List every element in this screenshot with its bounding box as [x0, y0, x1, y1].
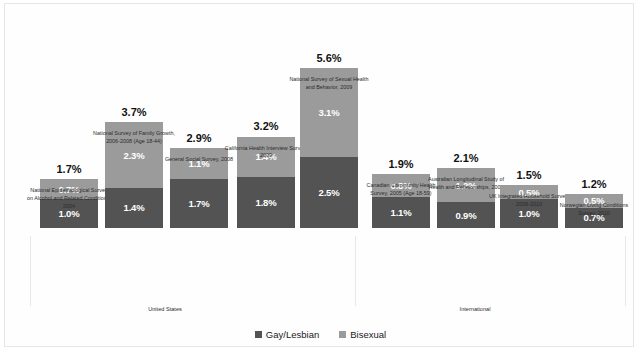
bar-segment-gay-lesbian[interactable]: 1.4%	[105, 188, 163, 228]
bar-total-label: 3.2%	[223, 120, 309, 132]
bar-total-label: 5.6%	[286, 52, 372, 64]
bar-group[interactable]: 1.2%0.5%0.7%Norwegian Living Conditions …	[565, 194, 623, 228]
legend-label: Gay/Lesbian	[266, 329, 319, 340]
bar-total-label: 1.7%	[26, 163, 112, 175]
bar-category-label: California Health Interview Survey, 2009	[224, 145, 308, 161]
group-caption-united-states: United States	[105, 306, 225, 312]
bar-segment-gay-lesbian[interactable]: 2.5%	[300, 157, 358, 229]
bar-segment-gay-lesbian[interactable]: 1.8%	[237, 177, 295, 228]
legend-item-bisexual[interactable]: Bisexual	[339, 329, 386, 340]
bar-category-label: National Epidemiological Survey on Alcoh…	[27, 187, 111, 210]
bar-group[interactable]: 5.6%3.1%2.5%National Survey of Sexual He…	[300, 68, 358, 228]
bar-group[interactable]: 2.9%1.1%1.7%General Social Survey, 2008	[170, 148, 228, 228]
bar-segment-gay-lesbian[interactable]: 1.7%	[170, 179, 228, 228]
legend-item-gay-lesbian[interactable]: Gay/Lesbian	[255, 329, 319, 340]
bar-category-label: National Survey of Sexual Health and Beh…	[287, 76, 371, 92]
bar-total-label: 2.9%	[156, 132, 242, 144]
bar-total-label: 2.1%	[423, 152, 509, 164]
chart-plot-area: United States International 1.7%0.7%1.0%…	[0, 0, 641, 352]
bar-group[interactable]: 1.7%0.7%1.0%National Epidemiological Sur…	[40, 179, 98, 228]
bar-total-label: 3.7%	[91, 106, 177, 118]
legend-swatch-icon	[339, 331, 346, 338]
bar-group[interactable]: 3.2%1.4%1.8%California Health Interview …	[237, 137, 295, 229]
bar-segment-gay-lesbian[interactable]: 1.1%	[372, 197, 430, 228]
chart-legend: Gay/Lesbian Bisexual	[0, 329, 641, 340]
legend-label: Bisexual	[350, 329, 386, 340]
legend-swatch-icon	[255, 331, 262, 338]
bar-group[interactable]: 3.7%2.3%1.4%National Survey of Family Gr…	[105, 122, 163, 228]
group-divider	[625, 236, 626, 306]
bar-category-label: Norwegian Living Conditions Survey, 2010	[552, 202, 636, 218]
bar-total-label: 1.2%	[551, 178, 637, 190]
group-divider	[355, 236, 356, 306]
bar-stack: 3.1%2.5%	[300, 68, 358, 228]
group-caption-international: International	[415, 306, 535, 312]
bar-group[interactable]: 1.5%0.5%1.0%UK Integrated Household Surv…	[500, 185, 558, 228]
bar-group[interactable]: 1.9%0.8%1.1%Canadian Community Health Su…	[372, 174, 430, 228]
group-divider	[30, 236, 31, 306]
